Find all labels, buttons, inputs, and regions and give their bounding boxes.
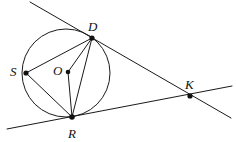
line-through-D-and-K [30, 2, 231, 118]
point-dot-K [187, 93, 192, 98]
point-label-O: O [53, 63, 63, 78]
segment-O-D [68, 38, 92, 72]
point-dot-S [23, 70, 28, 75]
point-label-R: R [67, 126, 76, 141]
point-dot-O [66, 70, 71, 75]
point-label-D: D [87, 19, 98, 34]
point-dot-D [89, 35, 94, 40]
point-label-S: S [10, 64, 17, 79]
point-label-K: K [184, 77, 195, 92]
line-through-R-and-K [7, 86, 232, 129]
geometry-figure: D S O R K [0, 0, 236, 142]
geometry-canvas: D S O R K [0, 0, 236, 142]
segment-O-R [68, 72, 72, 117]
segment-D-R [72, 38, 92, 117]
segment-S-R [26, 73, 72, 117]
point-dot-R [69, 114, 75, 120]
